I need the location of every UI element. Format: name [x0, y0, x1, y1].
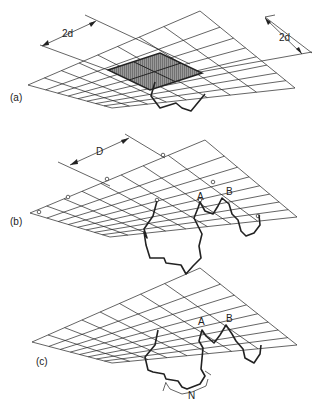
point-label-A: A [197, 191, 204, 202]
panel-label-b: (b) [10, 216, 22, 227]
panel-b: D A B (b) [10, 134, 297, 274]
grid-c [32, 268, 297, 363]
point-label-N: N [188, 390, 195, 401]
point-label-A: A [198, 316, 205, 327]
point-label-B: B [226, 186, 233, 197]
point-label-B: B [226, 313, 233, 324]
panel-label-c: (c) [36, 356, 48, 367]
crack-grid-diagram: 2d 2d (a) D A B (b) N A B (c) [0, 0, 318, 405]
dimension-label-D: D [96, 146, 103, 157]
panel-label-a: (a) [10, 92, 22, 103]
crack-path-b [144, 198, 260, 274]
panel-c: N A B (c) [32, 268, 297, 401]
dimension-label-2d-right: 2d [279, 32, 290, 43]
panel-a: 2d 2d (a) [10, 11, 312, 111]
dimension-label-2d-left: 2d [62, 28, 73, 39]
